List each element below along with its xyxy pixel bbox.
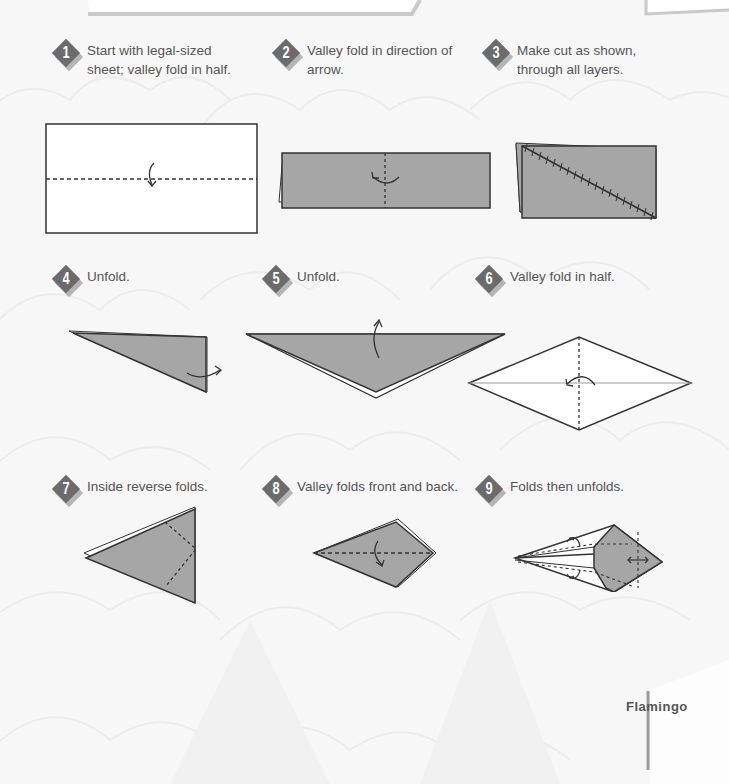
step-number-badge: 7: [53, 476, 81, 504]
instruction-line: Start with legal-sized: [87, 41, 231, 60]
step-number-badge: 8: [263, 476, 291, 504]
step-instruction: Start with legal-sized sheet; valley fol…: [87, 41, 231, 79]
step-2-diagram: [275, 150, 495, 212]
step-number-badge: 9: [476, 476, 504, 504]
instruction-line: sheet; valley fold in half.: [87, 60, 231, 79]
step-8-header: 8 Valley folds front and back.: [263, 476, 458, 504]
instruction-line: Valley folds front and back.: [297, 477, 458, 496]
step-number-badge: 1: [53, 40, 81, 68]
step-7-header: 7 Inside reverse folds.: [53, 476, 208, 504]
page-title: Flamingo: [626, 699, 688, 714]
instruction-line: Valley fold in direction of: [307, 41, 452, 60]
step-2-header: 2 Valley fold in direction of arrow.: [273, 40, 452, 79]
step-number: 6: [479, 270, 500, 288]
step-number: 4: [56, 270, 77, 288]
step-instruction: Valley fold in half.: [510, 267, 615, 286]
step-number: 7: [56, 480, 77, 498]
step-number-badge: 2: [273, 40, 301, 68]
step-number-badge: 6: [476, 266, 504, 294]
step-4-header: 4 Unfold.: [53, 266, 130, 294]
step-9-header: 9 Folds then unfolds.: [476, 476, 624, 504]
instruction-line: Inside reverse folds.: [87, 477, 208, 496]
step-6-header: 6 Valley fold in half.: [476, 266, 615, 294]
step-3-header: 3 Make cut as shown, through all layers.: [483, 40, 636, 79]
step-5-header: 5 Unfold.: [263, 266, 340, 294]
step-number-badge: 3: [483, 40, 511, 68]
step-instruction: Valley fold in direction of arrow.: [307, 41, 452, 79]
instruction-line: Valley fold in half.: [510, 267, 615, 286]
instruction-line: Make cut as shown,: [517, 41, 636, 60]
step-number: 1: [56, 44, 77, 62]
step-number: 8: [266, 480, 287, 498]
step-instruction: Inside reverse folds.: [87, 477, 208, 496]
step-8-diagram: [310, 515, 440, 590]
step-1-header: 1 Start with legal-sized sheet; valley f…: [53, 40, 231, 79]
step-instruction: Make cut as shown, through all layers.: [517, 41, 636, 79]
step-1-diagram: [40, 120, 265, 235]
instruction-line: through all layers.: [517, 60, 636, 79]
step-3-diagram: [510, 140, 660, 222]
instruction-line: Unfold.: [297, 267, 340, 286]
step-4-diagram: [60, 320, 230, 395]
step-number-badge: 5: [263, 266, 291, 294]
step-instruction: Unfold.: [297, 267, 340, 286]
step-number: 5: [266, 270, 287, 288]
step-9-diagram: [510, 520, 670, 592]
step-instruction: Unfold.: [87, 267, 130, 286]
step-number-badge: 4: [53, 266, 81, 294]
step-number: 2: [276, 44, 297, 62]
instruction-line: Unfold.: [87, 267, 130, 286]
step-instruction: Folds then unfolds.: [510, 477, 624, 496]
step-7-diagram: [80, 505, 205, 607]
step-number: 9: [479, 480, 500, 498]
instruction-line: Folds then unfolds.: [510, 477, 624, 496]
step-instruction: Valley folds front and back.: [297, 477, 458, 496]
step-6-diagram: [465, 330, 695, 435]
step-number: 3: [486, 44, 507, 62]
instruction-line: arrow.: [307, 60, 452, 79]
